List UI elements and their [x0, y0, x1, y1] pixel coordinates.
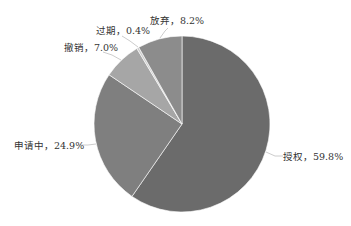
- leader-line-revoked: [103, 52, 121, 60]
- pie-slices: [94, 36, 270, 212]
- label-abandoned: 放弃，8.2%: [150, 16, 204, 26]
- pie-chart: [0, 0, 351, 226]
- label-pending: 申请中，24.9%: [14, 141, 84, 151]
- label-granted: 授权，59.8%: [283, 152, 343, 162]
- leader-line-expired: [122, 36, 138, 47]
- label-revoked: 撤销，7.0%: [64, 43, 118, 53]
- leader-line-abandoned: [160, 28, 168, 38]
- label-expired: 过期，0.4%: [96, 26, 150, 36]
- leader-line-granted: [266, 152, 283, 156]
